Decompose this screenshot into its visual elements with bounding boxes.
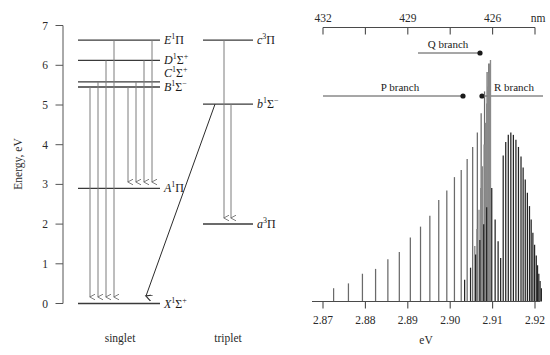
y-axis-title: Energy, eV bbox=[12, 138, 25, 190]
bottom-tick-label-1: 2.88 bbox=[355, 314, 375, 326]
state-labels: X1Σ+ A1Π B1Σ− C1Σ+ D1Σ+ E1Π a3Π b1Σ− c3Π bbox=[163, 32, 279, 311]
spectrum-branch-p-branch bbox=[334, 64, 489, 302]
transitions-triplet bbox=[224, 40, 231, 218]
state-label-c: c3Π bbox=[257, 32, 275, 47]
bottom-tick-label-2: 2.89 bbox=[398, 314, 418, 326]
caption-singlet: singlet bbox=[105, 332, 136, 345]
bottom-tick-label-5: 2.92 bbox=[525, 314, 545, 326]
bottom-axis-ticks bbox=[323, 302, 535, 309]
bottom-axis-title: eV bbox=[419, 334, 433, 346]
bottom-tick-label-0: 2.87 bbox=[313, 314, 333, 326]
state-label-X: X1Σ+ bbox=[163, 296, 187, 311]
energy-level-diagram-panel: 0 1 2 3 4 5 6 7 Energy, eV bbox=[0, 0, 290, 355]
y-tick-label-6: 6 bbox=[42, 59, 48, 71]
top-tick-label-426: 426 bbox=[484, 12, 502, 24]
top-tick-label-429: 429 bbox=[399, 12, 417, 24]
caption-triplet: triplet bbox=[214, 332, 242, 345]
y-tick-label-1: 1 bbox=[42, 258, 48, 270]
state-label-a: a3Π bbox=[257, 216, 276, 231]
q-branch-marker-dot bbox=[477, 50, 482, 55]
spectrum-panel: 432 429 426 nm Q branch P branch bbox=[290, 0, 550, 355]
state-label-C: C1Σ+ bbox=[164, 65, 188, 80]
state-label-b: b1Σ− bbox=[257, 96, 279, 111]
y-tick-label-2: 2 bbox=[42, 218, 48, 230]
state-label-B: B1Σ− bbox=[164, 79, 187, 94]
r-branch-label: R branch bbox=[494, 81, 535, 93]
y-tick-label-0: 0 bbox=[42, 298, 48, 310]
p-branch-marker-dot bbox=[460, 93, 465, 98]
bottom-ev-axis: 2.87 2.88 2.89 2.90 2.91 2.92 eV bbox=[312, 302, 545, 347]
y-tick-label-5: 5 bbox=[42, 99, 48, 111]
transitions-to-A bbox=[128, 40, 152, 182]
state-label-A: A1Π bbox=[163, 180, 184, 195]
q-branch-annotation: Q branch bbox=[418, 38, 483, 56]
bottom-tick-label-4: 2.91 bbox=[483, 314, 503, 326]
triplet-levels bbox=[203, 40, 253, 224]
transition-b-to-X-diagonal bbox=[146, 104, 215, 296]
spectrum-branch-r-branch bbox=[465, 132, 542, 301]
top-tick-label-432: 432 bbox=[314, 12, 332, 24]
column-captions: singlet triplet bbox=[105, 332, 243, 345]
transitions-to-ground bbox=[90, 40, 114, 297]
bottom-tick-label-3: 2.90 bbox=[440, 314, 460, 326]
y-tick-label-7: 7 bbox=[42, 20, 48, 32]
branch-annotations: Q branch P branch R branch bbox=[323, 38, 543, 99]
top-axis-ticks bbox=[323, 28, 535, 35]
spectrum-svg: 432 429 426 nm Q branch P branch bbox=[290, 0, 550, 355]
p-branch-annotation: P branch bbox=[323, 81, 466, 99]
y-tick-label-3: 3 bbox=[42, 178, 48, 190]
y-axis: 0 1 2 3 4 5 6 7 Energy, eV bbox=[12, 20, 63, 310]
r-branch-marker-dot bbox=[479, 93, 484, 98]
top-axis-unit-label: nm bbox=[531, 12, 546, 24]
energy-level-svg: 0 1 2 3 4 5 6 7 Energy, eV bbox=[0, 0, 290, 355]
state-label-E: E1Π bbox=[163, 32, 184, 47]
q-branch-label: Q branch bbox=[428, 38, 469, 50]
top-nm-axis: 432 429 426 nm bbox=[314, 12, 545, 35]
y-tick-label-4: 4 bbox=[42, 139, 48, 151]
p-branch-label: P branch bbox=[381, 81, 420, 93]
